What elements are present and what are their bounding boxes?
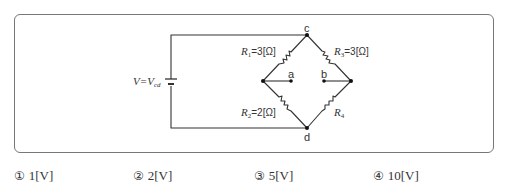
resistor-r3-label: R3=3[Ω]	[334, 46, 369, 59]
choice-1-number: ①	[14, 169, 25, 183]
node-d-label: d	[304, 132, 310, 143]
choice-3[interactable]: ③5[V]	[254, 168, 293, 184]
choice-1[interactable]: ①1[V]	[14, 168, 53, 184]
r1-value: =3[Ω]	[251, 46, 275, 57]
r2-symbol: R	[241, 106, 248, 118]
node-d-dot	[305, 126, 309, 130]
source-label-sub: cd	[154, 81, 161, 89]
choice-2-number: ②	[133, 169, 144, 183]
node-right-dot	[349, 79, 353, 83]
source-label: V=Vcd	[133, 76, 160, 89]
r1-symbol: R	[241, 45, 248, 57]
choice-3-number: ③	[254, 169, 265, 183]
resistor-r1-label: R1=3[Ω]	[241, 46, 276, 59]
choice-4-text: 10[V]	[388, 168, 419, 183]
source-label-prefix: V=V	[133, 75, 154, 87]
bridge-circuit	[0, 0, 505, 193]
r4-sub: 4	[341, 112, 345, 120]
choice-3-text: 5[V]	[269, 168, 294, 183]
resistor-r4-label: R4	[334, 107, 344, 120]
node-c-label: c	[304, 23, 310, 34]
r2-value: =2[Ω]	[251, 107, 275, 118]
choice-2-text: 2[V]	[148, 168, 173, 183]
choice-4[interactable]: ④10[V]	[373, 168, 419, 184]
answer-choices: ①1[V] ②2[V] ③5[V] ④10[V]	[0, 168, 505, 188]
r3-value: =3[Ω]	[344, 46, 368, 57]
r3-symbol: R	[334, 45, 341, 57]
terminal-a-label: a	[288, 69, 294, 80]
resistor-r4	[307, 81, 351, 128]
terminal-b-label: b	[321, 69, 327, 80]
choice-2[interactable]: ②2[V]	[133, 168, 172, 184]
resistor-r2	[263, 81, 307, 128]
resistor-r2-label: R2=2[Ω]	[241, 107, 276, 120]
choice-1-text: 1[V]	[29, 168, 54, 183]
wire-bottom	[171, 86, 307, 128]
r4-symbol: R	[334, 106, 341, 118]
choice-4-number: ④	[373, 169, 384, 183]
node-left-dot	[261, 79, 265, 83]
